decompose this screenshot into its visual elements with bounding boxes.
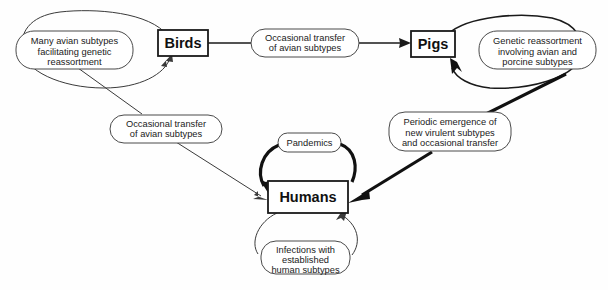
annotation-pandemics-label: Pandemics — [287, 138, 333, 148]
annotation-humans-loop-line1: Infections with — [276, 245, 335, 255]
node-humans[interactable]: Humans — [268, 181, 348, 213]
annotation-birds-loop-line1: Many avian subtypes — [31, 36, 119, 46]
annotation-birds-to-pigs[interactable]: Occasional transfer of avian subtypes — [251, 29, 359, 57]
pigs-to-periodic-connector — [482, 74, 566, 116]
birds-bubble-to-transfer-connector — [78, 68, 142, 114]
birds-to-humans-edge — [176, 142, 268, 200]
annotation-birds-to-humans[interactable]: Occasional transfer of avian subtypes — [110, 115, 222, 143]
annotation-birds-loop-line3: reassortment — [47, 57, 102, 67]
annotation-pigs-loop[interactable]: Genetic reassortment involving avian and… — [479, 31, 596, 69]
node-pigs-label: Pigs — [418, 36, 449, 52]
annotation-pigs-to-humans-line1: Periodic emergence of — [403, 117, 496, 127]
node-humans-label: Humans — [279, 189, 336, 205]
annotation-humans-loop-line2: established — [282, 255, 329, 265]
annotation-pigs-loop-line1: Genetic reassortment — [493, 36, 582, 46]
annotation-birds-to-pigs-line2: of avian subtypes — [269, 43, 342, 53]
annotation-pigs-to-humans[interactable]: Periodic emergence of new virulent subty… — [389, 112, 511, 151]
annotation-birds-to-pigs-line1: Occasional transfer — [265, 33, 345, 43]
annotation-birds-loop[interactable]: Many avian subtypes facilitating genetic… — [16, 31, 133, 69]
annotation-pigs-to-humans-line3: and occasional transfer — [402, 138, 498, 148]
annotation-pigs-to-humans-line2: new virulent subtypes — [405, 128, 495, 138]
annotation-humans-loop-line3: human subtypes — [271, 265, 340, 275]
annotation-birds-loop-line2: facilitating genetic — [38, 47, 112, 57]
diagram-canvas: Birds Pigs Humans Many avian subtypes fa… — [0, 0, 608, 290]
annotation-pigs-loop-line2: involving avian and — [498, 47, 577, 57]
annotation-birds-to-humans-line2: of avian subtypes — [130, 129, 203, 139]
pigs-to-humans-edge — [348, 152, 432, 203]
annotation-birds-to-humans-line1: Occasional transfer — [126, 119, 206, 129]
annotation-pigs-loop-line3: porcine subtypes — [502, 57, 573, 67]
annotation-pandemics[interactable]: Pandemics — [278, 133, 341, 152]
influenza-transmission-diagram: Birds Pigs Humans Many avian subtypes fa… — [0, 0, 608, 290]
node-pigs[interactable]: Pigs — [411, 31, 455, 57]
node-birds[interactable]: Birds — [158, 30, 208, 56]
node-birds-label: Birds — [164, 35, 201, 51]
annotation-humans-loop[interactable]: Infections with established human subtyp… — [261, 241, 350, 275]
